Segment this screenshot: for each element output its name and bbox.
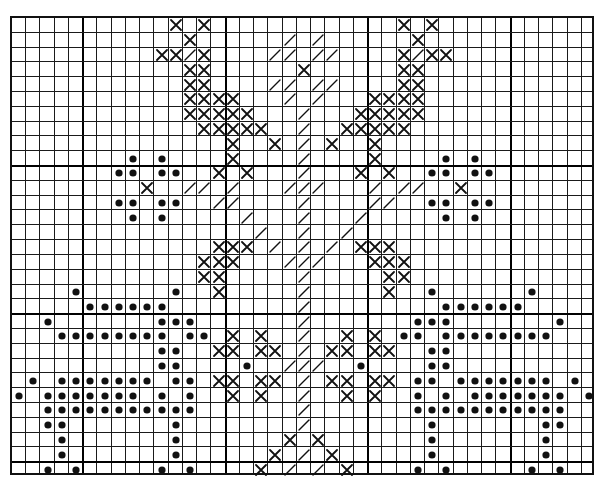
dot-stitch-icon	[112, 388, 126, 403]
cross-stitch-icon	[169, 18, 183, 33]
half-stitch-icon	[283, 462, 297, 477]
dot-stitch-icon	[411, 403, 425, 418]
dot-stitch-icon	[26, 373, 40, 388]
cross-stitch-icon	[211, 166, 225, 181]
cross-stitch-icon	[325, 344, 339, 359]
dot-stitch-icon	[539, 418, 553, 433]
dot-stitch-icon	[169, 403, 183, 418]
cross-stitch-icon	[197, 62, 211, 77]
dot-stitch-icon	[69, 388, 83, 403]
dot-stitch-icon	[55, 373, 69, 388]
cross-stitch-icon	[268, 344, 282, 359]
dot-stitch-icon	[69, 403, 83, 418]
dot-stitch-icon	[454, 329, 468, 344]
cross-stitch-icon	[368, 107, 382, 122]
cross-stitch-icon	[211, 270, 225, 285]
cross-stitch-icon	[368, 151, 382, 166]
dot-stitch-icon	[183, 373, 197, 388]
cross-stitch-icon	[268, 447, 282, 462]
cross-stitch-icon	[354, 107, 368, 122]
dot-stitch-icon	[183, 314, 197, 329]
cross-stitch-icon	[254, 373, 268, 388]
cross-stitch-icon	[154, 48, 168, 63]
dot-stitch-icon	[154, 329, 168, 344]
dot-stitch-icon	[525, 462, 539, 477]
dot-stitch-icon	[482, 196, 496, 211]
half-stitch-icon	[283, 359, 297, 374]
dot-stitch-icon	[154, 314, 168, 329]
cross-stitch-icon	[211, 92, 225, 107]
dot-stitch-icon	[112, 299, 126, 314]
cross-stitch-icon	[226, 122, 240, 137]
dot-stitch-icon	[154, 403, 168, 418]
dot-stitch-icon	[126, 373, 140, 388]
dot-stitch-icon	[83, 388, 97, 403]
dot-stitch-icon	[169, 447, 183, 462]
half-stitch-icon	[183, 181, 197, 196]
dot-stitch-icon	[539, 329, 553, 344]
cross-stitch-icon	[211, 255, 225, 270]
cross-stitch-icon	[368, 240, 382, 255]
dot-stitch-icon	[154, 344, 168, 359]
dot-stitch-icon	[425, 418, 439, 433]
half-stitch-icon	[283, 33, 297, 48]
dot-stitch-icon	[553, 314, 567, 329]
half-stitch-icon	[297, 314, 311, 329]
dot-stitch-icon	[126, 403, 140, 418]
dot-stitch-icon	[511, 329, 525, 344]
dot-stitch-icon	[397, 329, 411, 344]
half-stitch-icon	[325, 77, 339, 92]
cross-stitch-icon	[397, 92, 411, 107]
dot-stitch-icon	[468, 210, 482, 225]
dot-stitch-icon	[468, 196, 482, 211]
dot-stitch-icon	[425, 359, 439, 374]
dot-stitch-icon	[454, 373, 468, 388]
dot-stitch-icon	[468, 151, 482, 166]
dot-stitch-icon	[439, 344, 453, 359]
cross-stitch-icon	[382, 92, 396, 107]
dot-stitch-icon	[183, 329, 197, 344]
dot-stitch-icon	[496, 403, 510, 418]
dot-stitch-icon	[154, 196, 168, 211]
dot-stitch-icon	[525, 388, 539, 403]
dot-stitch-icon	[439, 299, 453, 314]
cross-stitch-icon	[411, 92, 425, 107]
cross-stitch-icon	[197, 270, 211, 285]
dot-stitch-icon	[425, 403, 439, 418]
half-stitch-icon	[297, 299, 311, 314]
cross-stitch-icon	[354, 240, 368, 255]
dot-stitch-icon	[126, 329, 140, 344]
dot-stitch-icon	[83, 373, 97, 388]
dot-stitch-icon	[496, 373, 510, 388]
cross-stitch-icon	[183, 33, 197, 48]
dot-stitch-icon	[468, 329, 482, 344]
cross-stitch-icon	[183, 107, 197, 122]
cross-stitch-icon	[397, 270, 411, 285]
dot-stitch-icon	[126, 210, 140, 225]
dot-stitch-icon	[169, 285, 183, 300]
dot-stitch-icon	[511, 403, 525, 418]
half-stitch-icon	[297, 270, 311, 285]
cross-stitch-icon	[397, 107, 411, 122]
dot-stitch-icon	[425, 344, 439, 359]
dot-stitch-icon	[83, 299, 97, 314]
cross-stitch-icon	[197, 48, 211, 63]
cross-stitch-icon	[297, 62, 311, 77]
cross-stitch-icon	[368, 92, 382, 107]
dot-stitch-icon	[539, 403, 553, 418]
dot-stitch-icon	[439, 403, 453, 418]
dot-stitch-icon	[154, 359, 168, 374]
cross-stitch-icon	[340, 329, 354, 344]
cross-stitch-icon	[382, 270, 396, 285]
half-stitch-icon	[340, 225, 354, 240]
dot-stitch-icon	[55, 329, 69, 344]
half-stitch-icon	[268, 240, 282, 255]
half-stitch-icon	[325, 240, 339, 255]
dot-stitch-icon	[511, 373, 525, 388]
cross-stitch-icon	[439, 48, 453, 63]
cross-stitch-icon	[240, 122, 254, 137]
dot-stitch-icon	[197, 329, 211, 344]
cross-stitch-icon	[211, 344, 225, 359]
dot-stitch-icon	[425, 196, 439, 211]
cross-stitch-icon	[382, 373, 396, 388]
